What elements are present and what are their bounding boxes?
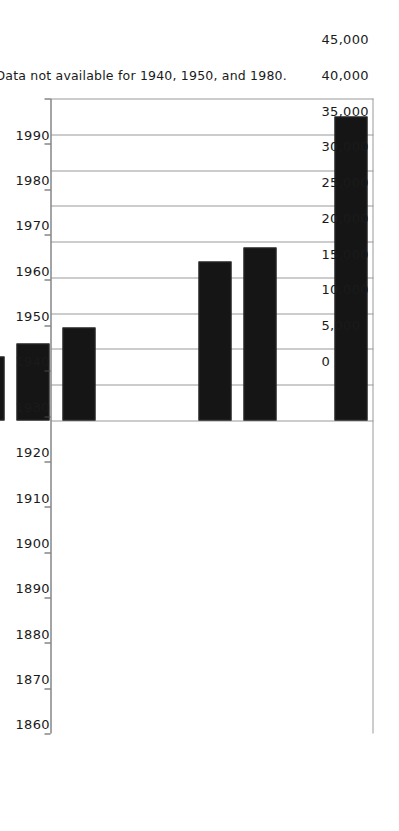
category-label-1980: 1980	[15, 172, 49, 187]
bar	[334, 116, 367, 420]
category-tick	[44, 506, 50, 507]
gridline	[51, 205, 373, 206]
value-label-10000: 10,000	[321, 281, 368, 296]
value-label-5000: 5,000	[321, 317, 360, 332]
category-label-1970: 1970	[15, 217, 49, 232]
category-tick	[44, 597, 50, 598]
category-tick	[44, 234, 50, 235]
value-label-15000: 15,000	[321, 246, 368, 261]
value-label-0: 0	[321, 353, 330, 368]
category-label-1910: 1910	[15, 490, 49, 505]
chart-canvas: 1860187018801890190019101920193019401950…	[0, 0, 399, 831]
category-label-1890: 1890	[15, 580, 49, 595]
gridline	[51, 98, 373, 99]
chart-plot-area: 1860187018801890190019101920193019401950…	[0, 0, 399, 831]
category-tick	[44, 552, 50, 553]
category-tick	[44, 189, 50, 190]
category-tick	[44, 279, 50, 280]
bar	[243, 247, 276, 420]
category-label-1960: 1960	[15, 263, 49, 278]
category-label-1880: 1880	[15, 626, 49, 641]
category-label-1950: 1950	[15, 308, 49, 323]
category-tick	[44, 461, 50, 462]
gridline	[51, 134, 373, 135]
category-tick	[44, 143, 50, 144]
category-label-1930: 1930	[15, 399, 49, 414]
category-tick	[44, 416, 50, 417]
bar	[198, 261, 231, 420]
value-label-40000: 40,000	[321, 67, 368, 82]
value-label-20000: 20,000	[321, 210, 368, 225]
category-label-1870: 1870	[15, 671, 49, 686]
plot-frame	[51, 98, 373, 733]
category-label-1990: 1990	[15, 127, 49, 142]
plot-top-border	[372, 98, 373, 733]
value-label-45000: 45,000	[321, 31, 368, 46]
bar	[62, 327, 95, 420]
category-tick	[44, 688, 50, 689]
category-label-1860: 1860	[15, 716, 49, 731]
category-label-1900: 1900	[15, 535, 49, 550]
category-tick	[44, 642, 50, 643]
value-label-25000: 25,000	[321, 174, 368, 189]
value-label-30000: 30,000	[321, 138, 368, 153]
category-tick	[44, 325, 50, 326]
category-tick	[44, 733, 50, 734]
gridline	[51, 170, 373, 171]
category-tick	[44, 98, 50, 99]
value-label-35000: 35,000	[321, 103, 368, 118]
gridline	[51, 241, 373, 242]
category-label-1920: 1920	[15, 444, 49, 459]
category-label-1940: 1940	[15, 353, 49, 368]
category-tick	[44, 370, 50, 371]
bar	[0, 356, 4, 420]
missing-data-note: Note: Data not available for 1940, 1950,…	[0, 67, 286, 82]
